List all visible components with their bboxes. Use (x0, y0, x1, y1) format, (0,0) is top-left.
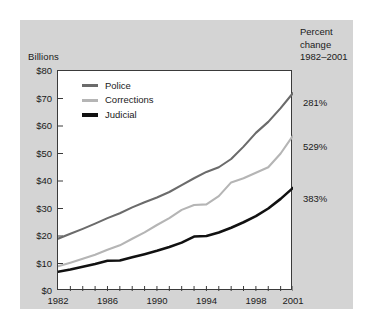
x-tick-label-1990: 1990 (137, 295, 177, 306)
y-tick-label-10: $10 (22, 258, 52, 269)
y-tick-label-70: $70 (22, 93, 52, 104)
legend-item-police: Police (82, 79, 154, 92)
percent-change-header-line3: 1982–2001 (300, 51, 348, 64)
percent-change-value-corrections: 529% (303, 141, 327, 152)
x-axis-ticks (70, 286, 293, 291)
legend-label-police: Police (105, 81, 131, 91)
x-tick-label-2001: 2001 (273, 295, 313, 306)
legend-swatch-judicial (82, 113, 98, 117)
y-tick-label-60: $60 (22, 120, 52, 131)
y-tick-label-80: $80 (22, 65, 52, 76)
percent-change-value-judicial: 383% (303, 193, 327, 204)
y-tick-label-20: $20 (22, 230, 52, 241)
y-tick-label-40: $40 (22, 175, 52, 186)
legend-swatch-corrections (82, 99, 98, 102)
x-tick-label-1986: 1986 (88, 295, 128, 306)
percent-change-header-line2: change (300, 39, 348, 52)
x-tick-label-1998: 1998 (236, 295, 276, 306)
y-axis-unit-label: Billions (28, 51, 59, 62)
legend-item-corrections: Corrections (82, 94, 154, 107)
legend-item-judicial: Judicial (82, 108, 154, 121)
legend-label-corrections: Corrections (105, 95, 154, 105)
percent-change-header-line1: Percent (300, 26, 348, 39)
y-tick-label-50: $50 (22, 148, 52, 159)
x-tick-label-1994: 1994 (187, 295, 227, 306)
series-line-corrections (58, 136, 293, 267)
percent-change-header: Percent change 1982–2001 (300, 26, 348, 64)
legend-swatch-police (82, 84, 98, 87)
percent-change-value-police: 281% (303, 97, 327, 108)
legend-label-judicial: Judicial (105, 110, 137, 120)
chart-figure: Billions Percent change 1982–2001 281% 5… (0, 0, 370, 333)
chart-legend: Police Corrections Judicial (82, 79, 154, 123)
y-tick-label-30: $30 (22, 203, 52, 214)
series-line-judicial (58, 188, 293, 272)
x-tick-label-1982: 1982 (38, 295, 78, 306)
